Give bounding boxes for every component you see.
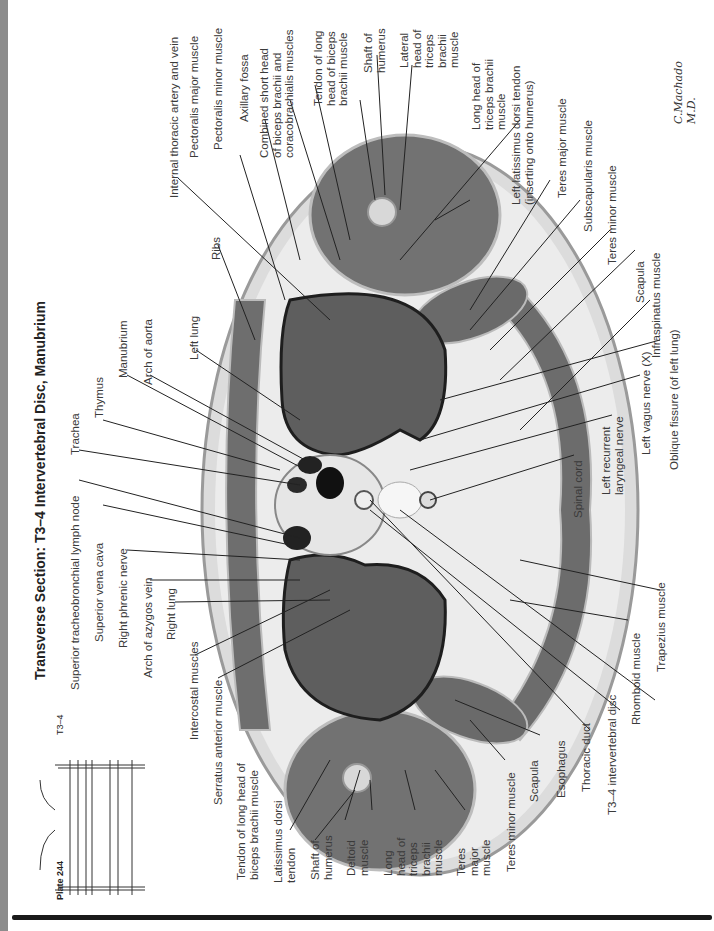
label-shaft-of-humerus-bottom: Shaft of humerus [309,835,334,880]
label-thoracic-duct: Thoracic duct [580,723,593,792]
label-axillary-fossa: Axillary fossa [238,54,251,122]
label-superior-tracheobronchial-lymph-node: Superior tracheobronchial lymph node [69,496,82,690]
label-arch-of-aorta: Arch of aorta [142,319,155,385]
label-long-head-triceps-bottom: Long head of triceps brachii muscle [382,838,445,876]
label-combined-short-head: Combined short head of biceps brachii an… [258,30,296,158]
label-latissimus-dorsi-tendon-bottom: Latissimus dorsi tendon [272,801,297,883]
label-tendon-long-head-biceps-bottom: Tendon of long head of biceps brachii mu… [235,763,260,880]
label-left-latissimus-dorsi-tendon: Left latissimus dorsi tendon (inserting … [510,66,535,205]
label-left-vagus-nerve: Left vagus nerve (X) [640,351,653,455]
label-manubrium: Manubrium [117,320,130,378]
label-scapula-top: Scapula [634,261,647,303]
label-deltoid-muscle: Deltoid muscle [345,840,370,876]
label-left-recurrent-laryngeal-nerve: Left recurrent laryngeal nerve [600,416,625,495]
label-lateral-head-triceps: Lateral head of triceps brachii muscle [398,30,461,68]
label-rhomboid-muscle: Rhomboid muscle [630,633,643,725]
label-oblique-fissure: Oblique fissure (of left lung) [668,329,681,470]
label-shaft-of-humerus-top: Shaft of humerus [362,28,387,73]
label-spinal-cord: Spinal cord [572,460,585,518]
label-teres-minor-muscle-top: Teres minor muscle [606,165,619,265]
label-pectoralis-major-muscle: Pectoralis major muscle [188,36,201,158]
label-right-lung: Right lung [165,588,178,640]
label-thymus: Thymus [93,377,106,418]
label-esophagus: Esophagus [555,740,568,798]
label-right-phrenic-nerve: Right phrenic nerve [117,548,130,648]
label-intercostal-muscles: Intercostal muscles [188,642,201,740]
label-t3-4-intervertebral-disc: T3–4 intervertebral disc [606,695,619,815]
label-internal-thoracic-artery-vein: Internal thoracic artery and vein [168,37,181,198]
label-trachea: Trachea [69,413,82,455]
label-scapula-bottom: Scapula [528,760,541,802]
label-teres-major-muscle-bottom: Teres major muscle [455,840,493,876]
label-tendon-long-head-biceps-top: Tendon of long head of biceps brachii mu… [312,31,350,106]
illustrator-signature: C.Machado M.D. [672,61,698,124]
label-serratus-anterior-muscle: Serratus anterior muscle [212,680,225,805]
label-trapezius-muscle: Trapezius muscle [655,582,668,672]
label-pectoralis-minor-muscle: Pectoralis minor muscle [212,28,225,150]
label-superior-vena-cava: Superior vena cava [93,543,106,642]
label-infraspinatus-muscle: Infraspinatus muscle [650,253,663,358]
label-ribs: Ribs [210,237,223,260]
label-subscapularis-muscle: Subscapularis muscle [582,120,595,232]
label-left-lung: Left lung [188,316,201,360]
label-arch-of-azygos-vein: Arch of azygos vein [142,578,155,678]
label-teres-major-muscle-top: Teres major muscle [556,98,569,198]
label-long-head-triceps-top: Long head of triceps brachii muscle [470,59,508,130]
label-teres-minor-muscle-bottom: Teres minor muscle [505,772,518,872]
